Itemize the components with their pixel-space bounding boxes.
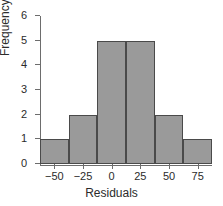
y-axis-tick-label: 4: [21, 59, 27, 70]
plot-area: 0123456−50−250255075: [40, 16, 212, 164]
y-axis-tick: 4: [35, 64, 40, 65]
y-axis-tick-label: 3: [21, 84, 27, 95]
x-axis-line: [40, 165, 212, 166]
x-axis-tick-label: 0: [109, 171, 115, 182]
x-axis-tick-label: −50: [45, 171, 64, 182]
y-axis-tick-label: 6: [21, 10, 27, 21]
histogram-bar: [40, 139, 69, 164]
x-axis-tick-label: 25: [134, 171, 146, 182]
x-axis-tick-label: 75: [192, 171, 204, 182]
y-axis-tick: 6: [35, 15, 40, 16]
x-axis-tick: 25: [140, 164, 141, 169]
x-axis-tick-label: 50: [163, 171, 175, 182]
x-axis-tick: 50: [169, 164, 170, 169]
y-axis-tick: 2: [35, 114, 40, 115]
y-axis-tick-label: 2: [21, 108, 27, 119]
histogram-bar: [69, 115, 98, 164]
histogram-bar: [183, 139, 212, 164]
histogram-chart: Frequency Residuals 0123456−50−250255075: [0, 0, 223, 206]
x-axis-tick: −50: [54, 164, 55, 169]
histogram-bar: [155, 115, 184, 164]
y-axis-tick: 5: [35, 40, 40, 41]
y-axis-tick-label: 5: [21, 34, 27, 45]
y-axis-label: Frequency: [0, 0, 12, 56]
histogram-bar: [97, 41, 126, 164]
y-axis-tick-label: 0: [21, 158, 27, 169]
x-axis-tick: −25: [83, 164, 84, 169]
y-axis-tick: 3: [35, 89, 40, 90]
y-axis-tick-label: 1: [21, 133, 27, 144]
histogram-bar: [126, 41, 155, 164]
x-axis-tick: 75: [198, 164, 199, 169]
x-axis-label: Residuals: [0, 186, 223, 200]
x-axis-tick-label: −25: [74, 171, 93, 182]
x-axis-tick: 0: [112, 164, 113, 169]
